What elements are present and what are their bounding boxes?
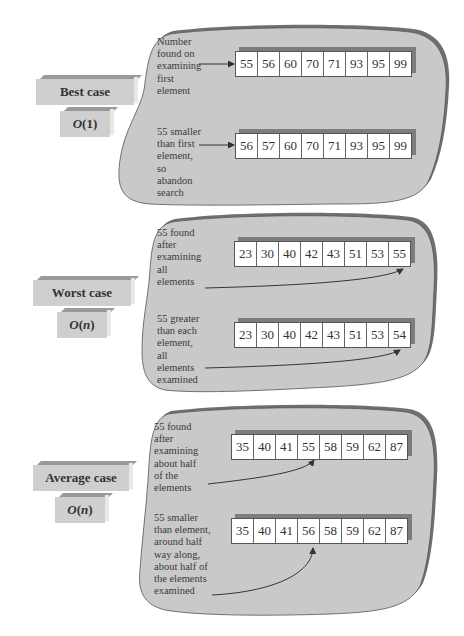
array-cell: 30	[257, 323, 279, 347]
complexity-label-average: O(n)	[55, 497, 105, 523]
array-cell: 54	[389, 323, 410, 347]
array-cell: 56	[298, 519, 320, 543]
big-o-symbol: O	[73, 116, 82, 131]
complexity-label-worst: O(n)	[57, 312, 107, 338]
array-cell: 43	[323, 242, 345, 266]
array-worst-found: 23 30 40 42 43 51 53 55	[234, 241, 411, 267]
array-cell: 51	[345, 323, 367, 347]
array-cell: 51	[345, 242, 367, 266]
array-cell: 23	[235, 242, 257, 266]
array-cell: 62	[364, 435, 386, 459]
array-cell: 40	[254, 519, 276, 543]
case-label-average: Average case	[33, 465, 129, 491]
array-cell: 40	[279, 242, 301, 266]
array-cell: 42	[301, 323, 323, 347]
array-cell: 23	[235, 323, 257, 347]
array-average-examined: 35 40 41 56 58 59 62 87	[231, 518, 408, 544]
note-worst-examined: 55 greater than each element, all elemen…	[157, 313, 199, 386]
array-cell: 93	[346, 134, 368, 158]
array-cell: 41	[276, 519, 298, 543]
array-cell: 42	[301, 242, 323, 266]
array-cell: 35	[232, 435, 254, 459]
array-cell: 95	[368, 52, 390, 76]
array-cell: 58	[320, 519, 342, 543]
array-cell: 99	[390, 134, 411, 158]
array-cell: 35	[232, 519, 254, 543]
case-name: Best case	[60, 84, 110, 99]
case-name: Average case	[45, 470, 117, 485]
big-o-symbol: O	[69, 317, 78, 332]
array-cell: 99	[390, 52, 411, 76]
array-cell: 70	[302, 134, 324, 158]
array-cell: 60	[280, 52, 302, 76]
note-best-abandon: 55 smaller than first element, so abando…	[157, 126, 201, 199]
array-cell: 53	[367, 323, 389, 347]
complexity-label-best: O(1)	[60, 111, 110, 137]
array-worst-examined: 23 30 40 42 43 51 53 54	[234, 322, 411, 348]
array-cell: 60	[280, 134, 302, 158]
array-cell: 59	[342, 519, 364, 543]
case-label-best: Best case	[36, 79, 134, 105]
case-name: Worst case	[52, 285, 112, 300]
array-average-found: 35 40 41 55 58 59 62 87	[231, 434, 408, 460]
array-cell: 30	[257, 242, 279, 266]
array-cell: 59	[342, 435, 364, 459]
array-cell: 55	[236, 52, 258, 76]
array-cell: 71	[324, 52, 346, 76]
big-o-symbol: O	[67, 502, 76, 517]
array-cell: 53	[367, 242, 389, 266]
note-average-examined: 55 smaller than element, around half way…	[154, 512, 211, 597]
array-cell: 62	[364, 519, 386, 543]
array-cell: 57	[258, 134, 280, 158]
array-cell: 55	[298, 435, 320, 459]
array-cell: 40	[279, 323, 301, 347]
array-cell: 71	[324, 134, 346, 158]
note-worst-found: 55 found after examining all elements	[157, 227, 201, 288]
array-cell: 41	[276, 435, 298, 459]
array-cell: 58	[320, 435, 342, 459]
note-average-found: 55 found after examining about half of t…	[154, 421, 198, 494]
array-best-abandon: 56 57 60 70 71 93 95 99	[235, 133, 412, 159]
array-cell: 95	[368, 134, 390, 158]
array-best-found: 55 56 60 70 71 93 95 99	[235, 51, 412, 77]
array-cell: 43	[323, 323, 345, 347]
case-label-worst: Worst case	[33, 280, 131, 306]
array-cell: 87	[386, 519, 407, 543]
array-cell: 56	[258, 52, 280, 76]
array-cell: 70	[302, 52, 324, 76]
array-cell: 87	[386, 435, 407, 459]
note-best-found: Number found on examining first element	[157, 36, 201, 97]
array-cell: 56	[236, 134, 258, 158]
array-cell: 93	[346, 52, 368, 76]
array-cell: 55	[389, 242, 410, 266]
array-cell: 40	[254, 435, 276, 459]
